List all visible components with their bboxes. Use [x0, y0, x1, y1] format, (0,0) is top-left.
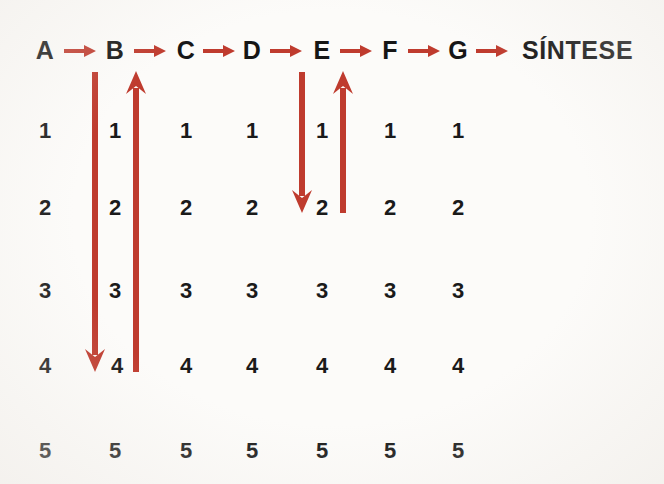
grid-cell: 1 [166, 118, 206, 144]
grid-cell: 1 [370, 118, 410, 144]
grid-cell: 2 [166, 195, 206, 221]
grid-cell: 3 [25, 278, 65, 304]
grid-cell: 4 [232, 353, 272, 379]
grid-cell: 2 [438, 195, 478, 221]
grid-cell: 2 [370, 195, 410, 221]
grid-cell: 1 [95, 118, 135, 144]
grid-cell: 4 [438, 353, 478, 379]
grid-cell: 1 [232, 118, 272, 144]
grid-cell: 4 [166, 353, 206, 379]
grid-cell: 5 [25, 438, 65, 464]
grid-cell: 3 [232, 278, 272, 304]
grid-cell: 1 [302, 118, 342, 144]
grid-cell: 2 [25, 195, 65, 221]
grid-cell: 4 [25, 353, 65, 379]
grid-cell: 3 [166, 278, 206, 304]
grid-cell: 3 [95, 278, 135, 304]
grid-cell: 2 [95, 195, 135, 221]
grid-cell: 3 [302, 278, 342, 304]
grid-cell: 3 [438, 278, 478, 304]
numeric-grid: 1 1 1 1 1 1 1 2 2 2 2 2 2 2 3 3 3 3 3 3 … [0, 0, 664, 484]
grid-cell: 4 [302, 353, 342, 379]
grid-cell: 4 [97, 353, 137, 379]
grid-cell: 5 [95, 438, 135, 464]
grid-cell: 5 [302, 438, 342, 464]
grid-cell: 2 [232, 195, 272, 221]
grid-cell: 1 [25, 118, 65, 144]
diagram-canvas: A B C D E F G SÍNTESE 1 1 1 1 1 1 1 2 2 … [0, 0, 664, 484]
grid-cell: 2 [302, 195, 342, 221]
grid-cell: 1 [438, 118, 478, 144]
grid-cell: 5 [166, 438, 206, 464]
grid-cell: 5 [370, 438, 410, 464]
grid-cell: 3 [370, 278, 410, 304]
grid-cell: 4 [370, 353, 410, 379]
grid-cell: 5 [438, 438, 478, 464]
grid-cell: 5 [232, 438, 272, 464]
